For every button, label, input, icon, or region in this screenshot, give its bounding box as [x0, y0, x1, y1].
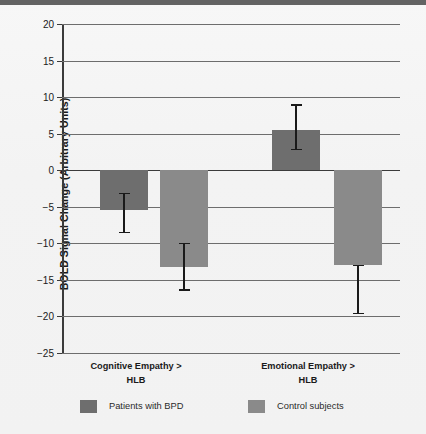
- legend-label-control-subjects: Control subjects: [277, 401, 344, 411]
- tick-mark-minus15: [57, 280, 62, 281]
- tick-mark-15: [57, 61, 62, 62]
- legend-label-patients-with-bpd: Patients with BPD: [109, 401, 183, 411]
- tick-mark-minus10: [57, 243, 62, 244]
- y-tick-label-minus5: −5: [43, 201, 54, 212]
- tick-mark-0: [57, 170, 62, 171]
- gridline-20: [62, 24, 400, 25]
- gridline-minus20: [62, 316, 400, 317]
- tick-mark-10: [57, 97, 62, 98]
- y-tick-label-10: 10: [43, 92, 54, 103]
- y-tick-label-0: 0: [48, 165, 54, 176]
- y-tick-label-20: 20: [43, 19, 54, 30]
- bar-chart-figure: BOLD Signal Change (Arbitrary Units) 20 …: [0, 0, 426, 434]
- chart-legend: Patients with BPD Control subjects: [62, 398, 400, 416]
- tick-mark-minus20: [57, 316, 62, 317]
- error-bar-cap-lower-patients-cognitive: [119, 232, 130, 233]
- y-tick-label-minus20: −20: [37, 311, 54, 322]
- error-bar-line-controls-emotional: [357, 265, 358, 313]
- error-bar-line-patients-cognitive: [123, 194, 124, 233]
- y-tick-label-15: 15: [43, 55, 54, 66]
- tick-mark-minus25: [57, 353, 62, 354]
- error-bar-cap-upper-controls-emotional: [353, 265, 364, 266]
- category-label-cognitive-line2: HLB: [62, 374, 210, 388]
- legend-swatch-patients-with-bpd: [80, 400, 97, 413]
- tick-mark-20: [57, 24, 62, 25]
- error-bar-cap-upper-controls-cognitive: [179, 243, 190, 244]
- tick-mark-5: [57, 134, 62, 135]
- error-bar-line-patients-emotional: [295, 105, 296, 150]
- bar-controls-emotional: [334, 170, 382, 265]
- plot-area: 20 15 10 5 0 −5 −10 −15 −20: [62, 24, 400, 353]
- y-tick-label-5: 5: [48, 128, 54, 139]
- gridline-minus25: [62, 353, 400, 354]
- category-label-emotional-line2: HLB: [234, 374, 382, 388]
- category-label-cognitive: Cognitive Empathy > HLB: [62, 360, 210, 387]
- y-tick-label-minus25: −25: [37, 348, 54, 359]
- error-bar-line-controls-cognitive: [183, 243, 184, 290]
- legend-item-patients-with-bpd: Patients with BPD: [80, 398, 183, 414]
- legend-item-control-subjects: Control subjects: [248, 398, 344, 414]
- category-label-cognitive-line1: Cognitive Empathy >: [62, 360, 210, 374]
- y-tick-label-minus10: −10: [37, 238, 54, 249]
- gridline-5: [62, 134, 400, 135]
- chart-screenshot: BOLD Signal Change (Arbitrary Units) 20 …: [0, 0, 426, 434]
- gridline-15: [62, 61, 400, 62]
- error-bar-cap-upper-patients-emotional: [291, 104, 302, 105]
- y-axis-line: [62, 24, 64, 353]
- error-bar-cap-lower-controls-cognitive: [179, 289, 190, 290]
- tick-mark-minus5: [57, 207, 62, 208]
- error-bar-cap-lower-controls-emotional: [353, 313, 364, 314]
- legend-swatch-control-subjects: [248, 400, 265, 413]
- error-bar-cap-upper-patients-cognitive: [119, 193, 130, 194]
- category-label-emotional: Emotional Empathy > HLB: [234, 360, 382, 387]
- error-bar-cap-lower-patients-emotional: [291, 149, 302, 150]
- y-tick-label-minus15: −15: [37, 274, 54, 285]
- category-label-emotional-line1: Emotional Empathy >: [234, 360, 382, 374]
- gridline-minus15: [62, 280, 400, 281]
- gridline-10: [62, 97, 400, 98]
